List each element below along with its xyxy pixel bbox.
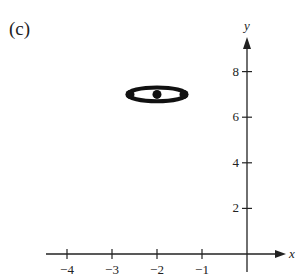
y-tick-label: 8	[233, 64, 240, 79]
coordinate-plot: xy −4−3−2−12468	[0, 0, 304, 280]
point-center	[153, 90, 162, 99]
x-tick-label: −2	[150, 262, 164, 277]
x-tick-label: −4	[60, 262, 74, 277]
point-vertex-left	[126, 90, 135, 99]
point-vertex-right	[180, 90, 189, 99]
y-axis-label: y	[242, 18, 250, 33]
y-axis-arrow-icon	[243, 37, 251, 49]
x-tick-label: −1	[195, 262, 209, 277]
axes: xy	[46, 18, 295, 272]
y-tick-label: 4	[233, 155, 240, 170]
y-tick-label: 2	[233, 200, 240, 215]
y-tick-label: 6	[233, 109, 240, 124]
x-axis-arrow-icon	[275, 250, 286, 258]
x-axis-label: x	[288, 246, 295, 261]
x-tick-label: −3	[105, 262, 119, 277]
